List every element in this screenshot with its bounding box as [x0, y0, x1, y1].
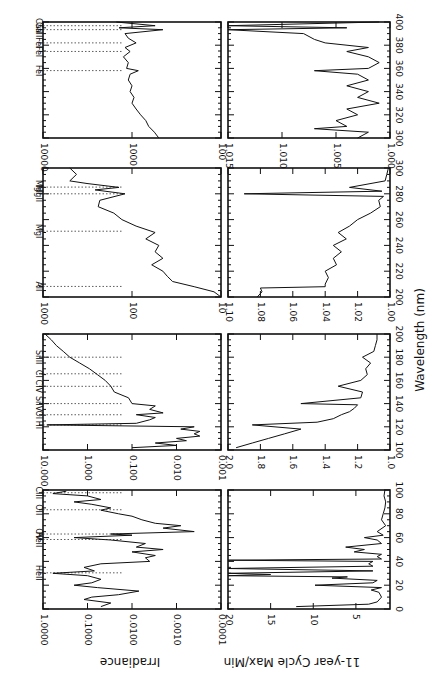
x-tick-label: 40	[394, 556, 404, 568]
x-tick-label: 240	[394, 237, 404, 254]
spectral-line-label: HeII	[34, 565, 43, 581]
y-tick-label: 0.0100	[128, 614, 138, 646]
solar-irradiance-figure: 1.00000.10000.01000.00100.0001HeIIHeIIOV…	[0, 0, 444, 679]
x-tick-label: 20	[394, 579, 404, 591]
x-tick-label: 80	[394, 508, 404, 520]
y-tick-label: 10	[309, 614, 319, 626]
x-tick-label: 160	[394, 372, 404, 389]
y-tick-label: 2.0	[224, 455, 234, 470]
spectral-line-label: FeI	[34, 65, 43, 76]
x-tick-label: 60	[394, 532, 404, 544]
y-tick-label: 1.0000	[39, 614, 49, 646]
spectral-line-label: HI	[34, 421, 43, 429]
y-tick-label: 1.015	[224, 143, 234, 169]
y-tick-label: 100	[128, 302, 138, 319]
x-tick-label: 180	[394, 349, 404, 366]
y-tick-label: 1.06	[288, 302, 298, 322]
y-tick-label: 1.2	[353, 455, 363, 469]
y-tick-label: 1000	[39, 302, 49, 325]
y-tick-label: 1.6	[288, 455, 298, 470]
y-tick-label: 10000	[39, 143, 49, 172]
x-tick-label: 260	[394, 211, 404, 228]
x-tick-label: 280	[394, 185, 404, 202]
x-tick-label: 200	[394, 325, 404, 342]
y-tick-label: 1.10	[224, 302, 234, 322]
y-tick-label: 1.02	[353, 302, 363, 322]
x-tick-label: 120	[394, 418, 404, 435]
spectral-line-label: OII	[34, 504, 43, 515]
y-tick-label: 0.0010	[172, 614, 182, 646]
spectral-line-label: FeI	[34, 37, 43, 48]
x-axis-title: Wavelength (nm)	[413, 288, 427, 392]
y-tick-label: 0.100	[128, 455, 138, 481]
y-tick-label: 10.000	[39, 455, 49, 487]
panel-ratio-300-400: 1.0151.0101.0051.000300320340360380400	[224, 13, 405, 169]
y-tick-label: 1.00	[386, 302, 396, 322]
spectral-line-label: AlI	[34, 281, 43, 291]
spectral-line-label: CI	[34, 370, 43, 378]
y-tick-label: 1.0	[386, 455, 396, 470]
y-tick-label: 1.010	[278, 143, 288, 169]
spectral-line-label: MgI	[34, 224, 43, 238]
spectral-line-label: OV	[34, 528, 43, 540]
panel-ratio-0-100: 2015105020406080100	[224, 481, 405, 625]
x-tick-label: 220	[394, 263, 404, 280]
y-tick-label: 0.010	[172, 455, 182, 481]
x-tick-label: 340	[394, 83, 404, 100]
y-tick-label: 1.8	[256, 455, 266, 470]
x-tick-label: 360	[394, 60, 404, 77]
y-tick-label: 1.005	[332, 143, 342, 169]
y-tick-label: 0.1000	[83, 614, 93, 646]
spectral-line-label: MgII	[34, 185, 43, 202]
x-tick-label: 140	[394, 395, 404, 412]
y-tick-label: 15	[266, 614, 276, 625]
x-tick-label: 320	[394, 106, 404, 123]
x-tick-label: 100	[394, 441, 404, 458]
x-tick-label: 200	[394, 288, 404, 305]
y-tick-label: 1.4	[321, 455, 331, 470]
spectral-line-label: SiIII	[34, 350, 43, 364]
x-tick-label: 100	[394, 481, 404, 498]
y-axis-title-left: Irradiance	[100, 655, 160, 669]
x-tick-label: 300	[394, 129, 404, 146]
x-tick-label: 0	[394, 606, 404, 612]
y-axis-title-right: 11-year Cycle Max/Min	[224, 655, 361, 669]
y-tick-label: 1.04	[321, 302, 331, 322]
x-tick-label: 380	[394, 37, 404, 54]
spectral-line-label: CaII	[34, 18, 43, 33]
y-tick-label: 1.08	[256, 302, 266, 322]
y-tick-label: 5	[351, 614, 361, 620]
panel-ratio-100-200: 2.01.81.61.41.21.0100120140160180200	[224, 325, 405, 469]
y-tick-label: 1000	[128, 143, 138, 166]
spectral-line-label: SiIV	[34, 396, 43, 412]
panel-ratio-200-300: 1.101.081.061.041.021.002002202402602803…	[224, 159, 405, 322]
y-tick-label: 20	[224, 614, 234, 626]
spectral-line-label: CIV	[34, 380, 43, 394]
spectral-line-label: OI	[34, 410, 43, 419]
spectral-line-label: CIII	[34, 486, 43, 499]
x-tick-label: 400	[394, 13, 404, 30]
y-tick-label: 1.000	[386, 143, 396, 169]
y-tick-label: 1.000	[83, 455, 93, 481]
